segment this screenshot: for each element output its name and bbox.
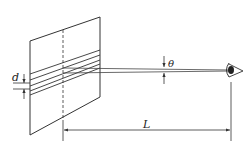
angle-label: θ (168, 58, 174, 69)
spacing-label: d (12, 71, 19, 84)
distance-label: L (142, 118, 150, 131)
grating-diagram: L θ d (0, 0, 252, 154)
eye-icon (227, 63, 244, 77)
